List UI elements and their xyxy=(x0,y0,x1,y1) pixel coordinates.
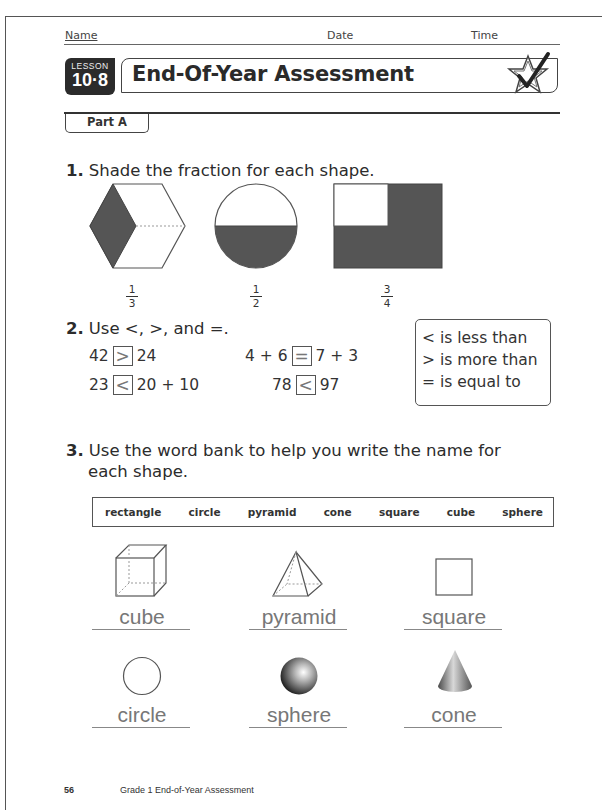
footer-text: Grade 1 End-of-Year Assessment xyxy=(120,785,254,795)
page-border-top xyxy=(5,16,602,17)
question-number: 3. xyxy=(66,441,84,460)
comparison-row: 78<97 xyxy=(272,375,339,395)
page-number: 56 xyxy=(64,785,74,795)
comparison-row: 4 + 6=7 + 3 xyxy=(245,346,358,366)
cube-icon xyxy=(114,543,170,599)
symbol-legend: < is less than > is more than = is equal… xyxy=(415,319,551,406)
date-label: Date xyxy=(327,29,353,42)
answer-circle[interactable]: circle xyxy=(92,703,192,727)
part-a-tab: Part A xyxy=(65,114,149,133)
answer-box[interactable]: = xyxy=(292,346,312,366)
word-bank: rectangle circle pyramid cone square cub… xyxy=(92,497,554,527)
question-3: 3.Use the word bank to help you write th… xyxy=(66,440,536,482)
name-label: Name xyxy=(65,29,97,42)
answer-line xyxy=(404,727,502,728)
cone-icon xyxy=(435,648,475,696)
page-border-left xyxy=(5,16,6,810)
comparison-row: 23<20 + 10 xyxy=(89,375,199,395)
answer-line xyxy=(249,727,347,728)
answer-cone[interactable]: cone xyxy=(404,703,504,727)
lesson-number: 10·8 xyxy=(65,71,115,89)
answer-box[interactable]: > xyxy=(113,346,133,366)
word-bank-item: square xyxy=(379,506,420,518)
word-bank-item: pyramid xyxy=(248,506,297,518)
header-write-line xyxy=(64,44,560,45)
word-bank-item: cube xyxy=(447,506,475,518)
time-label: Time xyxy=(471,29,498,42)
answer-line xyxy=(249,629,347,630)
answer-box[interactable]: < xyxy=(296,375,316,395)
circle-shape xyxy=(215,184,297,268)
page-title: End-Of-Year Assessment xyxy=(132,62,414,86)
circle-icon xyxy=(121,655,163,697)
question-prompt: Use <, >, and =. xyxy=(89,319,229,338)
question-number: 2. xyxy=(66,319,84,338)
answer-sphere[interactable]: sphere xyxy=(249,703,349,727)
fraction-one-half: 1 2 xyxy=(248,284,264,309)
answer-line xyxy=(92,629,190,630)
answer-line xyxy=(404,629,502,630)
question-number: 1. xyxy=(66,161,84,180)
fraction-one-third: 1 3 xyxy=(124,284,140,309)
word-bank-item: sphere xyxy=(502,506,543,518)
answer-pyramid[interactable]: pyramid xyxy=(249,605,349,629)
question-2: 2.Use <, >, and =. xyxy=(66,319,229,338)
word-bank-item: rectangle xyxy=(105,506,161,518)
fraction-shapes xyxy=(80,183,450,278)
sphere-icon xyxy=(278,655,320,697)
question-1: 1.Shade the fraction for each shape. xyxy=(66,161,375,180)
question-prompt-line1: Use the word bank to help you write the … xyxy=(89,441,501,460)
square-icon xyxy=(434,557,474,597)
answer-cube[interactable]: cube xyxy=(92,605,192,629)
comparison-row: 42>24 xyxy=(89,346,156,366)
question-prompt-line2: each shape. xyxy=(66,461,536,482)
legend-equal-to: = is equal to xyxy=(422,371,550,393)
fraction-three-fourths: 3 4 xyxy=(379,284,395,309)
answer-box[interactable]: < xyxy=(113,375,133,395)
question-prompt: Shade the fraction for each shape. xyxy=(89,161,375,180)
answer-square[interactable]: square xyxy=(404,605,504,629)
pyramid-icon xyxy=(271,550,325,598)
hexagon-shape xyxy=(90,184,185,268)
word-bank-item: circle xyxy=(189,506,221,518)
legend-more-than: > is more than xyxy=(422,349,550,371)
rectangle-shape xyxy=(334,184,442,268)
star-check-icon xyxy=(502,50,558,102)
lesson-badge: LESSON 10·8 xyxy=(65,58,115,95)
legend-less-than: < is less than xyxy=(422,327,550,349)
answer-line xyxy=(92,727,190,728)
word-bank-item: cone xyxy=(324,506,352,518)
